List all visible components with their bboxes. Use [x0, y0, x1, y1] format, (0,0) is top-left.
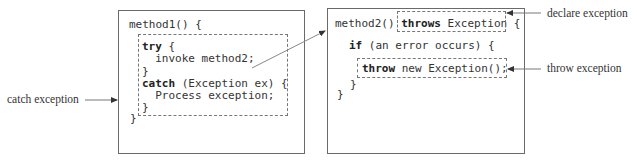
invoke-arrow [252, 31, 325, 68]
arrows-layer [0, 0, 637, 162]
